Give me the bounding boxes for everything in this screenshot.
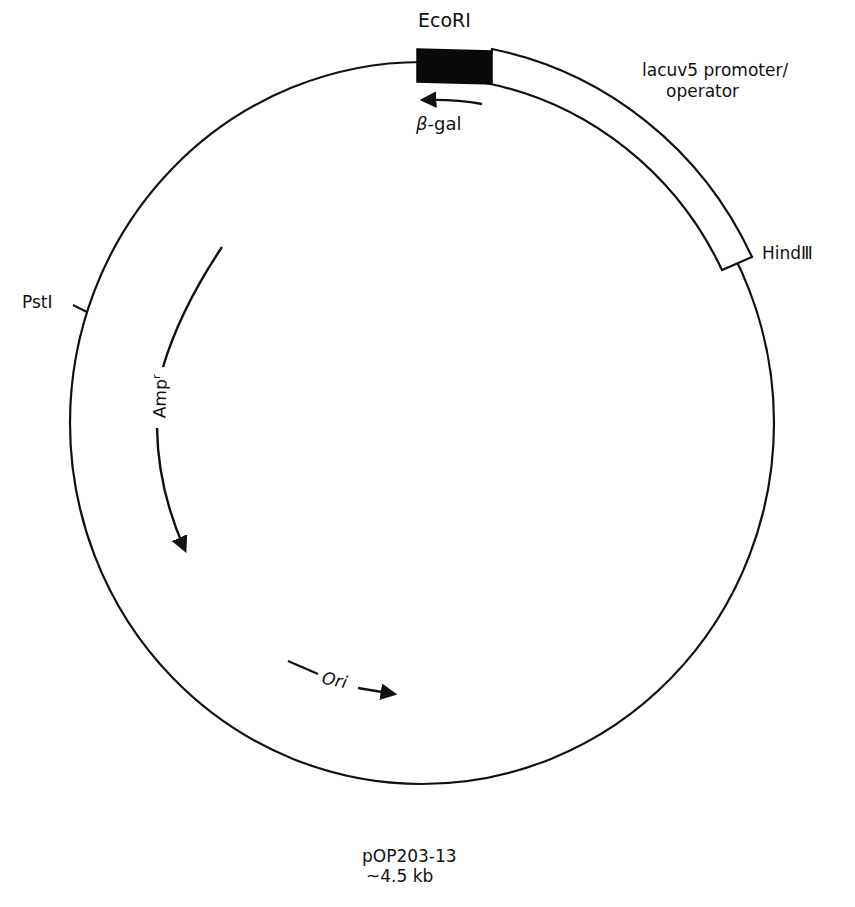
beta-gal-text: -gal — [428, 113, 462, 134]
beta-gal-block — [417, 49, 492, 84]
ampr-arrow-lower — [157, 428, 185, 550]
hindiii-label: HindⅢ — [762, 243, 813, 263]
ecori-label: EcoRI — [418, 10, 471, 30]
ampr-arrow-upper — [163, 247, 222, 367]
beta-symbol: β — [416, 113, 428, 134]
psti-tick — [73, 305, 87, 312]
beta-gal-arrow — [423, 100, 482, 104]
plasmid-name: pOP203-13 — [362, 846, 457, 866]
promoter-label-line1: lacuv5 promoter/ — [642, 60, 788, 80]
plasmid-map — [0, 0, 855, 907]
ori-arrow-tail — [288, 661, 318, 674]
beta-gal-label: β-gal — [416, 114, 461, 134]
ampr-text: Amp — [149, 379, 170, 419]
ori-arrow-head — [358, 688, 394, 694]
ampr-label: Ampr — [149, 374, 171, 418]
ampr-superscript: r — [150, 374, 163, 379]
promoter-label-line2: operator — [666, 81, 739, 101]
plasmid-size: ~4.5 kb — [366, 866, 433, 886]
psti-label: PstⅠ — [22, 292, 53, 312]
